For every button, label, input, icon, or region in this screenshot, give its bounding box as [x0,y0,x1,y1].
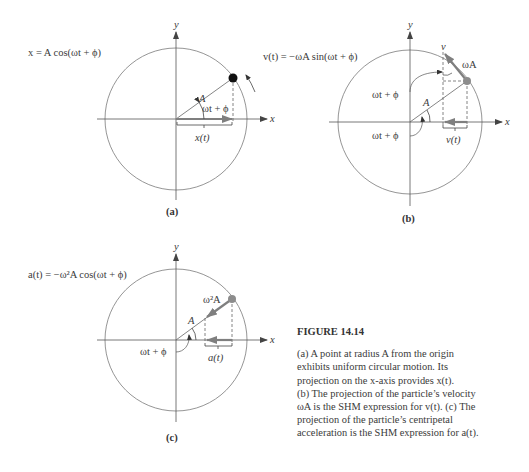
vertical-label-b: v [441,41,446,52]
y-axis-label-c: y [173,241,179,252]
angle-arc-b-top [443,73,452,75]
angle-label-a: ωt + ϕ [202,103,229,114]
angle-label-b-bottom: ωt + ϕ [372,130,399,141]
angle-label-b-top: ωt + ϕ [372,89,399,100]
brace-a [205,343,232,349]
brace-v [443,125,467,131]
projection-label-a: x(t) [194,132,210,144]
equation-c: a(t) = −ω²A cos(ωt + ϕ) [28,269,127,281]
panel-c: a(t) = −ω²A cos(ωt + ϕ) x y ω²A a(t) A ω… [28,241,275,444]
radius-line-b [410,81,467,122]
angle-arc-c [192,328,196,340]
figure-title: FIGURE 14.14 [297,325,527,338]
angle-label-c: ωt + ϕ [140,346,167,357]
caption-line: acceleration is the SHM expression for a… [297,426,527,439]
y-axis-label-b: y [407,19,413,30]
panel-label-b: (b) [402,213,415,225]
particle-b [463,77,471,85]
leader-top-b [410,72,442,92]
particle-a [229,74,238,83]
equation-b: v(t) = −ωA sin(ωt + ϕ) [263,51,358,63]
x-axis-label-c: x [269,334,275,345]
rotation-arrow-icon [246,75,255,92]
leader-c [176,335,189,352]
projection-label-b: v(t) [446,134,461,146]
caption-line: (b) The projection of the particle’s vel… [297,387,527,400]
caption-line: exhibits uniform circular motion. Its [297,360,527,373]
equation-a: x = A cos(ωt + ϕ) [28,47,101,59]
caption-line: projection of the particle’s centripetal [297,413,527,426]
brace-x [177,122,232,128]
panel-label-a: (a) [166,206,179,218]
figure-caption: FIGURE 14.14 (a) A point at radius A fro… [297,325,527,440]
x-axis-label-b: x [504,116,510,127]
caption-line: (a) A point at radius A from the origin [297,347,527,360]
angle-arc-b [427,110,430,122]
projection-label-c: a(t) [208,352,224,364]
panel-label-c: (c) [166,432,178,444]
y-axis-label-a: y [173,19,179,30]
caption-line: ωA is the SHM expression for v(t). (c) T… [297,400,527,413]
vector-label-b: ωA [462,59,477,70]
particle-c [228,295,236,303]
panel-b: v(t) = −ωA sin(ωt + ϕ) x y ωA v v(t) A ω… [263,19,510,225]
caption-line: projection on the x-axis provides x(t). [297,374,527,387]
vector-label-c: ω²A [203,294,221,305]
radius-label-b: A [422,97,430,108]
x-axis-label-a: x [269,113,275,124]
leader-bottom-b [410,117,422,136]
panel-a: x = A cos(ωt + ϕ) x y x(t) A ωt + ϕ (a) [28,19,275,218]
radius-label-c: A [187,315,195,326]
